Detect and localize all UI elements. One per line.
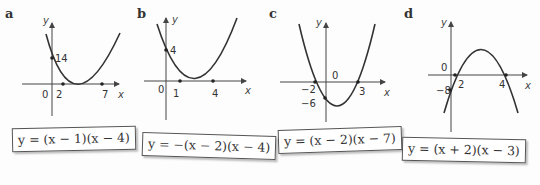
root-point bbox=[61, 82, 65, 86]
y-axis-label: y bbox=[315, 17, 323, 28]
equation-card-a: y = (x − 1)(x − 4) bbox=[12, 126, 136, 153]
equation-text: y = (x + 2)(x − 3) bbox=[408, 141, 520, 158]
root-label: 4 bbox=[212, 88, 218, 99]
parabola-curve bbox=[444, 50, 518, 114]
panel-letter-c: c bbox=[269, 6, 277, 21]
y-intercept-point bbox=[50, 56, 54, 60]
y-intercept-point bbox=[323, 96, 327, 100]
panel-letter-d: d bbox=[404, 6, 413, 21]
root-label: 2 bbox=[458, 79, 464, 90]
x-axis-label: x bbox=[117, 89, 124, 100]
graph-b: b y x 0 4 1 4 bbox=[137, 6, 251, 120]
x-axis-label: x bbox=[524, 80, 531, 91]
y-intercept-point bbox=[164, 48, 168, 52]
root-label: 2 bbox=[56, 89, 62, 100]
root-label: −2 bbox=[301, 84, 316, 95]
panel-letter-b: b bbox=[137, 6, 146, 21]
root-point bbox=[453, 73, 457, 77]
equation-text: y = −(x − 2)(x − 4) bbox=[148, 136, 271, 155]
origin-label: 0 bbox=[441, 62, 447, 73]
parabola-curve bbox=[157, 18, 237, 79]
equation-card-d: y = (x + 2)(x − 3) bbox=[402, 137, 526, 164]
panel-letter-a: a bbox=[5, 6, 14, 21]
y-intercept-label: −6 bbox=[301, 98, 316, 109]
origin-label: 0 bbox=[158, 84, 164, 95]
graph-a: a y x 0 14 2 7 bbox=[5, 6, 124, 116]
equation-text: y = (x − 1)(x − 4) bbox=[18, 130, 130, 147]
y-intercept-label: 4 bbox=[170, 45, 176, 56]
y-axis-label: y bbox=[42, 15, 50, 26]
graph-d: d y x 0 −8 2 4 bbox=[404, 6, 531, 132]
root-label: 1 bbox=[173, 88, 179, 99]
y-axis-label: y bbox=[171, 14, 179, 25]
root-point bbox=[356, 80, 360, 84]
root-point bbox=[178, 79, 182, 83]
origin-label: 0 bbox=[42, 89, 48, 100]
equation-text: y = (x − 2)(x − 7) bbox=[284, 130, 396, 149]
y-intercept-label: 14 bbox=[55, 53, 68, 64]
x-axis-label: x bbox=[244, 85, 251, 96]
root-label: 7 bbox=[102, 89, 108, 100]
equation-card-c: y = (x − 2)(x − 7) bbox=[278, 126, 403, 154]
root-point bbox=[100, 82, 104, 86]
root-point bbox=[211, 79, 215, 83]
root-label: 3 bbox=[359, 86, 365, 97]
root-point bbox=[504, 73, 508, 77]
x-axis-label: x bbox=[383, 87, 390, 98]
graph-c: c y x 0 −2 −6 3 bbox=[269, 6, 390, 122]
root-label: 4 bbox=[499, 79, 505, 90]
equation-card-b: y = −(x − 2)(x − 4) bbox=[142, 132, 277, 160]
y-intercept-label: −8 bbox=[436, 85, 451, 96]
y-axis-label: y bbox=[440, 17, 448, 28]
origin-label: 0 bbox=[332, 70, 338, 81]
